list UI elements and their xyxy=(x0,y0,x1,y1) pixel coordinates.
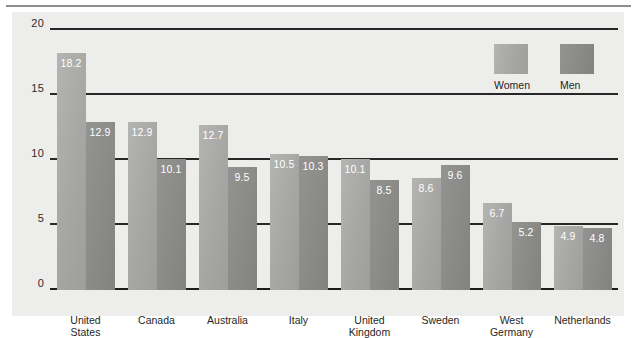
bar-value-label: 12.9 xyxy=(128,126,157,138)
bar-men: 9.6 xyxy=(441,165,470,290)
bar-value-label: 4.9 xyxy=(554,230,583,242)
legend-label: Men xyxy=(560,79,604,91)
x-axis-category-label: Italy xyxy=(263,314,334,326)
bar-value-label: 6.7 xyxy=(483,207,512,219)
legend-item-women: Women xyxy=(494,44,538,102)
x-axis-category-label: United Kingdom xyxy=(334,314,405,338)
x-axis-category-label: Netherlands xyxy=(547,314,618,326)
bar-value-label: 9.6 xyxy=(441,169,470,181)
bar-value-label: 10.1 xyxy=(341,163,370,175)
y-axis-tick-label: 20 xyxy=(31,17,44,29)
bar-men: 5.2 xyxy=(512,222,541,290)
bar-value-label: 18.2 xyxy=(57,57,86,69)
plot-panel: 05101520 18.212.912.910.112.79.510.510.3… xyxy=(12,12,624,316)
bar-value-label: 8.5 xyxy=(370,184,399,196)
x-axis-category-label: West Germany xyxy=(476,314,547,338)
legend-swatch-men xyxy=(560,44,594,74)
bar-value-label: 9.5 xyxy=(228,171,257,183)
x-axis-category-label: Canada xyxy=(121,314,192,326)
legend-swatch-women xyxy=(494,44,528,74)
bar-group: 10.510.3 xyxy=(263,154,334,291)
bar-value-label: 10.1 xyxy=(157,163,186,175)
bar-men: 12.9 xyxy=(86,122,115,290)
bar-value-label: 4.8 xyxy=(583,232,612,244)
bar-value-label: 12.9 xyxy=(86,126,115,138)
bar-group: 6.75.2 xyxy=(476,203,547,290)
bar-women: 18.2 xyxy=(57,53,86,290)
y-axis-tick-label: 0 xyxy=(38,277,44,289)
bar-value-label: 12.7 xyxy=(199,129,228,141)
bar-men: 8.5 xyxy=(370,180,399,291)
bar-group: 12.910.1 xyxy=(121,122,192,290)
y-axis-tick-label: 15 xyxy=(31,82,44,94)
bar-value-label: 5.2 xyxy=(512,226,541,238)
legend-label: Women xyxy=(494,79,538,91)
bar-women: 12.9 xyxy=(128,122,157,290)
bar-group: 8.69.6 xyxy=(405,165,476,290)
x-axis-category-label: Sweden xyxy=(405,314,476,326)
x-axis-category-label: United States xyxy=(50,314,121,338)
bar-group: 10.18.5 xyxy=(334,159,405,290)
bar-value-label: 10.5 xyxy=(270,158,299,170)
bar-group: 12.79.5 xyxy=(192,125,263,290)
bar-group: 4.94.8 xyxy=(547,226,618,290)
bar-women: 10.5 xyxy=(270,154,299,291)
bar-women: 12.7 xyxy=(199,125,228,290)
bar-women: 10.1 xyxy=(341,159,370,290)
bar-men: 9.5 xyxy=(228,167,257,291)
x-axis-category-label: Australia xyxy=(192,314,263,326)
bar-group: 18.212.9 xyxy=(50,53,121,290)
bar-men: 10.3 xyxy=(299,156,328,290)
top-rule-divider xyxy=(6,5,631,7)
bar-women: 6.7 xyxy=(483,203,512,290)
gridline-20: 20 xyxy=(50,28,618,30)
legend-item-men: Men xyxy=(560,44,604,102)
chart-legend: WomenMen xyxy=(494,44,626,102)
bar-women: 8.6 xyxy=(412,178,441,290)
bar-men: 10.1 xyxy=(157,159,186,290)
y-axis-tick-label: 10 xyxy=(31,147,44,159)
bar-men: 4.8 xyxy=(583,228,612,290)
bar-value-label: 8.6 xyxy=(412,182,441,194)
y-axis-tick-label: 5 xyxy=(38,212,44,224)
bar-women: 4.9 xyxy=(554,226,583,290)
bar-value-label: 10.3 xyxy=(299,160,328,172)
